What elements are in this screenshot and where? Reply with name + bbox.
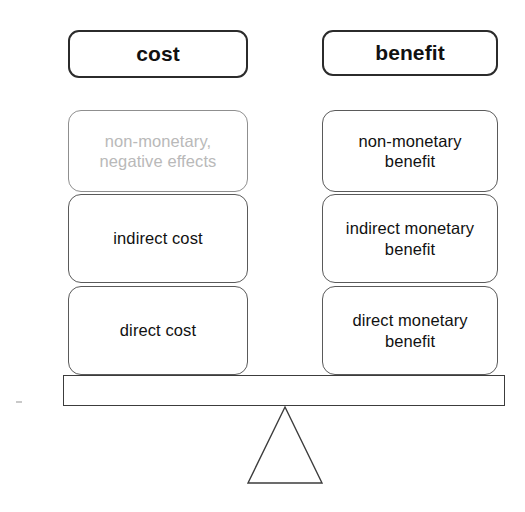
fulcrum-triangle-icon xyxy=(243,403,329,487)
benefit-item-2-label: indirect monetary benefit xyxy=(346,218,474,258)
benefit-item-direct-monetary-benefit: direct monetary benefit xyxy=(322,286,498,375)
column-header-benefit: benefit xyxy=(322,30,498,76)
diagram-canvas: cost non-monetary, negative effects indi… xyxy=(0,0,525,512)
benefit-item-1-label: non-monetary benefit xyxy=(358,131,461,171)
cost-item-1-label: non-monetary, negative effects xyxy=(100,131,217,171)
cost-item-direct-cost: direct cost xyxy=(68,286,248,375)
balance-beam xyxy=(63,375,505,406)
benefit-item-non-monetary-benefit: non-monetary benefit xyxy=(322,110,498,192)
triangular-fulcrum xyxy=(243,403,329,487)
scan-artifact-speck xyxy=(16,401,22,403)
cost-item-2-label: indirect cost xyxy=(113,228,202,248)
column-header-cost-label: cost xyxy=(136,41,180,67)
column-header-cost: cost xyxy=(68,30,248,78)
column-header-benefit-label: benefit xyxy=(375,40,445,66)
cost-item-indirect-cost: indirect cost xyxy=(68,194,248,283)
cost-item-3-label: direct cost xyxy=(120,320,196,340)
cost-item-non-monetary-negative-effects: non-monetary, negative effects xyxy=(68,110,248,192)
benefit-item-3-label: direct monetary benefit xyxy=(352,310,467,350)
benefit-item-indirect-monetary-benefit: indirect monetary benefit xyxy=(322,194,498,283)
